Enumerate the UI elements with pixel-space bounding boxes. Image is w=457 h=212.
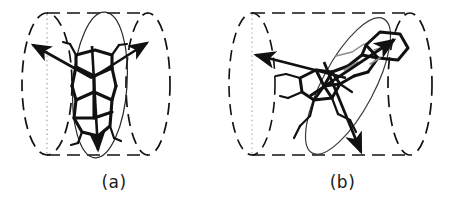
panel-a: (a) xyxy=(0,0,228,212)
figure-container: (a) xyxy=(0,0,457,212)
panel-b-label: (b) xyxy=(228,172,457,192)
cylinder-right-cap-ellipse xyxy=(126,13,170,155)
transition-dipole-arrow-left xyxy=(256,55,346,78)
transition-dipole-arrow-upper-right xyxy=(310,40,394,96)
transition-dipole-arrow-right xyxy=(92,43,147,78)
molecule-substituents-b xyxy=(276,74,356,138)
molecular-plane-ellipse xyxy=(68,10,132,159)
panel-a-label: (a) xyxy=(0,172,228,192)
transition-dipole-arrow-left xyxy=(33,45,92,78)
panel-b: (b) xyxy=(228,0,457,212)
molecular-plane-ellipse xyxy=(289,7,406,166)
